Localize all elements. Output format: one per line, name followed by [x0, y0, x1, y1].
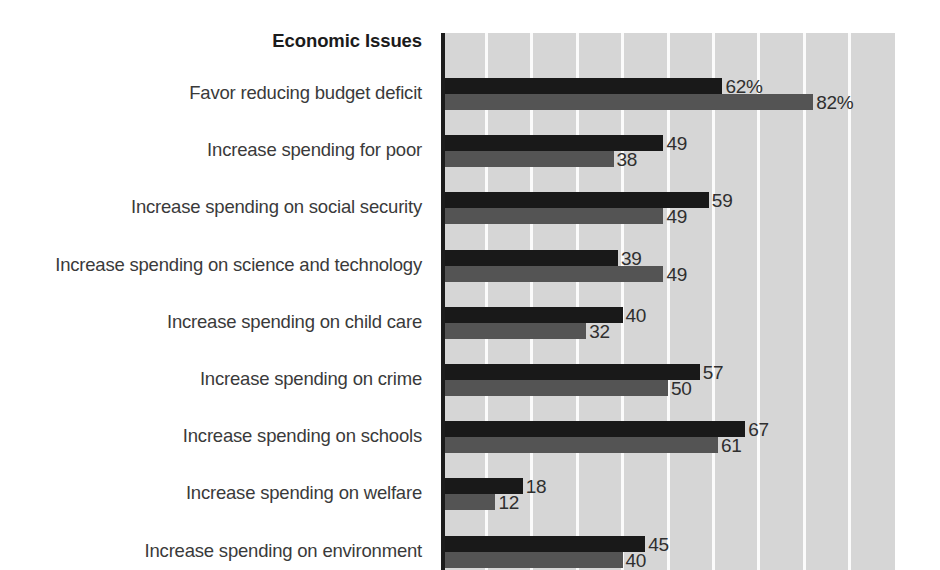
bar-value-label: 18: [526, 476, 547, 498]
category-label: Increase spending on environment: [0, 540, 422, 562]
bar-value-label: 49: [666, 264, 687, 286]
bar: [441, 421, 745, 437]
bar: [441, 437, 718, 453]
bar-value-label: 12: [498, 492, 519, 514]
bar-value-label: 40: [626, 305, 647, 327]
bar-value-label: 45: [648, 534, 669, 556]
bar-value-label: 49: [666, 206, 687, 228]
bar-value-label: 62%: [725, 76, 762, 98]
bar: [441, 151, 614, 167]
category-label: Increase spending for poor: [0, 139, 422, 161]
category-label-column: Economic Issues Favor reducing budget de…: [0, 0, 432, 570]
bar: [441, 323, 586, 339]
gridline: [576, 33, 579, 570]
bar-value-label: 59: [712, 190, 733, 212]
gridline: [803, 33, 806, 570]
gridline: [621, 33, 624, 570]
category-label: Increase spending on crime: [0, 368, 422, 390]
bar: [441, 78, 722, 94]
chart-title: Economic Issues: [2, 30, 422, 52]
bar: [441, 208, 663, 224]
category-label: Increase spending on child care: [0, 311, 422, 333]
bar-value-label: 82%: [816, 92, 853, 114]
bar-value-label: 67: [748, 419, 769, 441]
gridline: [712, 33, 715, 570]
category-label: Increase spending on schools: [0, 425, 422, 447]
gridline: [667, 33, 670, 570]
bar-value-label: 39: [621, 248, 642, 270]
bar-value-label: 57: [703, 362, 724, 384]
bar: [441, 494, 495, 510]
bar-value-label: 50: [671, 378, 692, 400]
bar: [441, 552, 623, 568]
bar: [441, 536, 645, 552]
bar: [441, 380, 668, 396]
bar-value-label: 49: [666, 133, 687, 155]
bar-value-label: 61: [721, 435, 742, 457]
value-axis: [441, 33, 445, 570]
bar-value-label: 32: [589, 321, 610, 343]
category-label: Increase spending on welfare: [0, 482, 422, 504]
bar-value-label: 38: [617, 149, 638, 171]
category-label: Increase spending on science and technol…: [0, 254, 422, 276]
bar-value-label: 40: [626, 550, 647, 570]
category-label: Favor reducing budget deficit: [0, 82, 422, 104]
gridline: [757, 33, 760, 570]
category-label: Increase spending on social security: [0, 196, 422, 218]
bar-chart: Economic Issues Favor reducing budget de…: [0, 0, 940, 570]
bar: [441, 364, 700, 380]
bar: [441, 250, 618, 266]
